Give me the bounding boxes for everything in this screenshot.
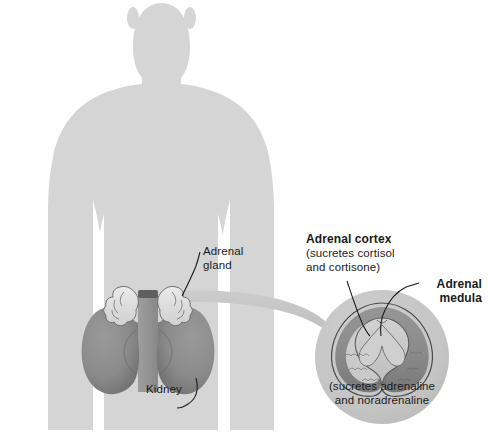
adrenal-gland-label: Adrenal gland: [203, 245, 243, 272]
kidney-label: Kidney: [146, 383, 182, 397]
body-head: [127, 3, 196, 92]
adrenal-medula-title: Adrenal medula: [396, 277, 482, 305]
illustration-layer: [0, 0, 488, 442]
adrenal-cortex-note: (sucretes cortisol and cortisone): [306, 247, 395, 274]
medulla-secretion-note: (sucretes adrenaline and noradrenaline: [311, 380, 453, 407]
adrenal-cortex-title: Adrenal cortex: [306, 232, 391, 246]
adrenal-gland-diagram: Adrenal gland Kidney Adrenal cortex (suc…: [0, 0, 488, 442]
